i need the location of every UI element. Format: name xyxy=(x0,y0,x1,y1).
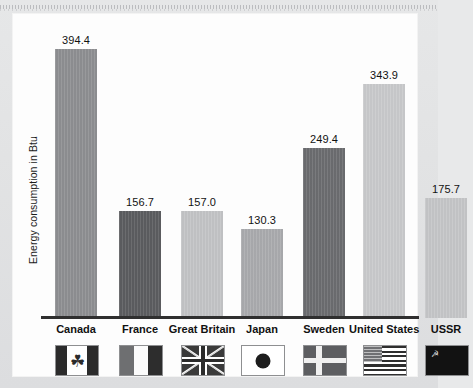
union-jack-horizontal-inner xyxy=(182,359,224,362)
canada-flag-icon: ☘ xyxy=(55,345,99,376)
category-label: United States xyxy=(349,323,419,335)
category-label: USSR xyxy=(411,323,473,335)
great-britain-flag-icon xyxy=(181,345,225,376)
bar-group[interactable]: 156.7 xyxy=(119,196,161,318)
bar-value-label: 394.4 xyxy=(62,34,90,46)
bar-group[interactable]: 394.4 xyxy=(55,34,97,318)
bar[interactable] xyxy=(119,211,161,318)
bar[interactable] xyxy=(181,211,223,318)
bar[interactable] xyxy=(303,148,345,318)
category-label: Japan xyxy=(227,323,297,335)
france-flag-band-3 xyxy=(148,346,162,375)
sweden-flag-icon xyxy=(303,345,347,376)
bar-group[interactable]: 130.3 xyxy=(241,214,283,318)
plot-area: 394.4 156.7 157.0 130.3 249.4 343.9 175.… xyxy=(41,32,419,318)
united-states-flag-icon xyxy=(363,345,407,376)
hammer-and-sickle-icon: ☭ xyxy=(431,350,439,359)
bar-group[interactable]: 175.7 xyxy=(425,183,467,318)
bar-group[interactable]: 343.9 xyxy=(363,69,405,318)
bar[interactable] xyxy=(241,229,283,318)
bar[interactable] xyxy=(55,49,97,318)
france-flag-band-1 xyxy=(120,346,134,375)
usa-flag-canton xyxy=(364,346,382,362)
bar-value-label: 249.4 xyxy=(310,133,338,145)
japan-flag-icon xyxy=(241,345,285,376)
france-flag-icon xyxy=(119,345,163,376)
bar-group[interactable]: 157.0 xyxy=(181,196,223,318)
chart-panel: Energy consumption in Btu 394.4 156.7 15… xyxy=(13,14,417,376)
category-label: Canada xyxy=(41,323,111,335)
canada-flag-left-band xyxy=(56,346,67,375)
bar[interactable] xyxy=(425,198,467,318)
sweden-flag-cross-horizontal xyxy=(304,358,346,364)
bar[interactable] xyxy=(363,84,405,318)
x-axis-baseline xyxy=(41,316,419,319)
frame-dotted-edge-secondary xyxy=(0,9,438,11)
bar-value-label: 156.7 xyxy=(126,196,154,208)
maple-leaf-icon: ☘ xyxy=(70,352,85,369)
bar-value-label: 130.3 xyxy=(248,214,276,226)
bar-group[interactable]: 249.4 xyxy=(303,133,345,318)
france-flag-band-2 xyxy=(134,346,148,375)
bar-value-label: 175.7 xyxy=(432,183,460,195)
ussr-flag-icon: ☭ xyxy=(425,345,469,376)
category-labels-row: CanadaFranceGreat BritainJapanSwedenUnit… xyxy=(41,323,419,341)
canada-flag-right-band xyxy=(87,346,98,375)
y-axis-title-label: Energy consumption in Btu xyxy=(27,104,39,264)
bar-value-label: 157.0 xyxy=(188,196,216,208)
flag-icons-row: ☘ ☭ xyxy=(41,345,419,379)
japan-flag-sun-disc xyxy=(256,353,271,368)
category-label: France xyxy=(105,323,175,335)
bar-value-label: 343.9 xyxy=(370,69,398,81)
